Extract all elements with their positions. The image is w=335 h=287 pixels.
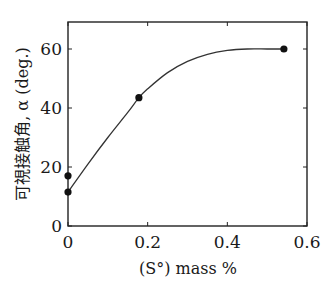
data-point <box>64 188 71 195</box>
chart: 00.20.40.6 0204060 (S°) mass % 可視接触角, α … <box>0 0 335 287</box>
y-tick-label: 60 <box>40 39 62 59</box>
y-axis-title: 可視接触角, α (deg.) <box>13 47 32 201</box>
x-axis-title: (S°) mass % <box>139 259 237 278</box>
fitted-curve <box>68 49 284 192</box>
y-tick-label: 0 <box>51 216 62 236</box>
data-point <box>280 45 287 52</box>
x-tick-label: 0 <box>63 232 74 252</box>
y-tick-label: 20 <box>40 157 62 177</box>
y-tick-label: 40 <box>40 98 62 118</box>
data-point <box>135 94 142 101</box>
axis-ticks <box>68 22 307 226</box>
data-point <box>64 172 71 179</box>
x-tick-label: 0.6 <box>293 232 320 252</box>
x-tick-label: 0.4 <box>214 232 241 252</box>
y-tick-labels: 0204060 <box>40 39 62 236</box>
x-tick-labels: 00.20.40.6 <box>63 232 321 252</box>
x-tick-label: 0.2 <box>134 232 161 252</box>
plot-frame <box>68 22 307 226</box>
